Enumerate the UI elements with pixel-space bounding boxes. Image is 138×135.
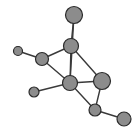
node-layer [14,7,132,127]
network-graph-canvas [0,0,138,135]
edge-layer [18,15,124,119]
graph-node[interactable] [117,112,131,126]
graph-node[interactable] [66,7,83,24]
graph-node[interactable] [94,73,111,90]
network-graph-svg [0,0,138,135]
graph-node[interactable] [29,87,39,97]
graph-node[interactable] [63,76,78,91]
graph-node[interactable] [64,39,79,54]
graph-node[interactable] [89,104,101,116]
graph-node[interactable] [36,53,49,66]
graph-node[interactable] [14,47,23,56]
